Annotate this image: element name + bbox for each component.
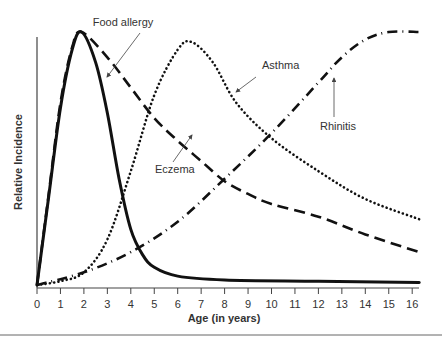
annotation-rhinitis: Rhinitis — [320, 120, 357, 132]
x-tick-label: 2 — [81, 298, 87, 310]
x-tick-label: 1 — [57, 298, 63, 310]
x-tick-label: 4 — [128, 298, 134, 310]
x-tick-label: 6 — [175, 298, 181, 310]
arrow-eczema — [173, 135, 192, 162]
x-tick-label: 0 — [34, 298, 40, 310]
x-tick-label: 9 — [245, 298, 251, 310]
x-tick-label: 3 — [104, 298, 110, 310]
chart: 012345678910111213141516 Age (in years) … — [0, 0, 442, 348]
x-tick-labels: 012345678910111213141516 — [34, 298, 418, 310]
x-tick-label: 8 — [222, 298, 228, 310]
x-tick-label: 7 — [198, 298, 204, 310]
annotation-asthma: Asthma — [262, 59, 300, 71]
x-tick-label: 15 — [383, 298, 395, 310]
x-tick-label: 16 — [406, 298, 418, 310]
x-axis-title: Age (in years) — [188, 312, 261, 324]
x-tick-label: 12 — [312, 298, 324, 310]
series-asthma — [37, 41, 419, 285]
x-tick-label: 5 — [151, 298, 157, 310]
x-tick-label: 11 — [289, 298, 300, 310]
y-axis-title: Relative Incidence — [12, 114, 24, 210]
x-ticks — [37, 288, 412, 294]
arrow-asthma — [236, 77, 256, 92]
annotation-eczema: Eczema — [155, 163, 196, 175]
annotation-food-allergy: Food allergy — [93, 16, 154, 28]
series-layer — [37, 31, 419, 285]
x-tick-label: 13 — [336, 298, 348, 310]
series-eczema — [37, 32, 419, 285]
arrow-food-allergy — [107, 33, 140, 77]
x-tick-label: 10 — [265, 298, 277, 310]
series-food-allergy — [37, 32, 419, 285]
series-rhinitis — [37, 31, 419, 285]
x-tick-label: 14 — [359, 298, 371, 310]
